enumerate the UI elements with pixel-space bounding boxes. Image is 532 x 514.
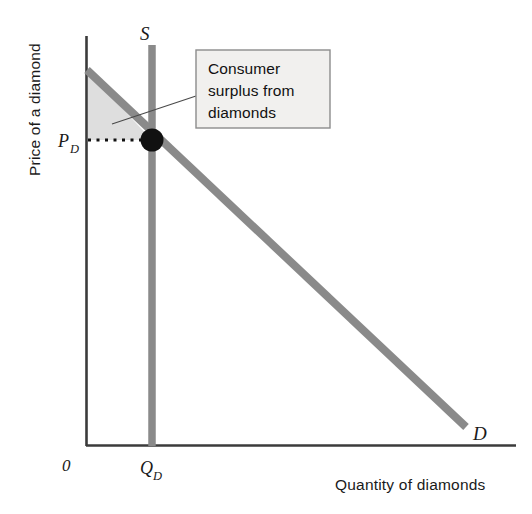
callout-line-3: diamonds xyxy=(208,104,276,121)
demand-curve-label: D xyxy=(472,423,487,444)
price-tick-label: P xyxy=(57,131,69,151)
y-axis-label: Price of a diamond xyxy=(26,43,43,176)
supply-curve-label: S xyxy=(140,23,150,44)
consumer-surplus-diagram: Consumer surplus from diamonds S D P D Q… xyxy=(0,0,532,514)
origin-label: 0 xyxy=(62,456,71,475)
quantity-tick-subscript: D xyxy=(152,469,162,483)
callout-line-1: Consumer xyxy=(208,60,280,77)
equilibrium-point xyxy=(141,129,164,152)
x-axis-label: Quantity of diamonds xyxy=(335,476,486,493)
callout-line-2: surplus from xyxy=(208,82,294,99)
diagram-canvas: Consumer surplus from diamonds S D P D Q… xyxy=(0,0,532,514)
price-tick-subscript: D xyxy=(69,142,79,156)
quantity-tick-label: Q xyxy=(140,458,153,478)
